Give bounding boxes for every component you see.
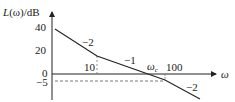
x-axis-label: ω <box>221 68 229 80</box>
y-label-arg: (ω) <box>9 6 24 19</box>
slope-label-2: −1 <box>124 54 136 66</box>
y-tick-minus5: −5 <box>36 76 48 88</box>
x-tick-10: 10 <box>84 61 96 73</box>
y-axis-label: L(ω)/dB <box>2 6 40 19</box>
y-label-unit: /dB <box>24 6 40 18</box>
slope-label-1: −2 <box>82 36 94 48</box>
crossover-label: ωc <box>147 60 159 74</box>
slope-label-3: −2 <box>186 81 198 93</box>
y-tick-20: 20 <box>35 44 47 56</box>
y-tick-40: 40 <box>35 21 47 33</box>
x-tick-100: 100 <box>166 61 183 73</box>
crossover-subscript: c <box>155 66 159 74</box>
y-label-func: L <box>2 6 9 18</box>
bode-diagram: L(ω)/dB ω 40 20 0 −5 10 100 ωc −2 −1 −2 <box>0 0 235 102</box>
